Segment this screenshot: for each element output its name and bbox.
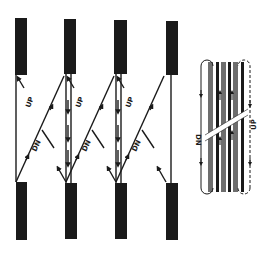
block-bottom-2 bbox=[65, 183, 77, 239]
label-up-1: UP bbox=[24, 96, 35, 109]
inset-label-up: UP bbox=[250, 119, 258, 130]
inset-diagram: DN UP bbox=[194, 60, 258, 194]
block-top-2 bbox=[64, 19, 76, 74]
block-bottom-1 bbox=[16, 182, 27, 240]
top-blocks bbox=[15, 18, 178, 75]
label-up-2: UP bbox=[74, 96, 85, 109]
label-up-3: UP bbox=[124, 96, 135, 109]
inset-label-dn: DN bbox=[194, 134, 202, 146]
block-bottom-3 bbox=[115, 183, 127, 239]
flow-lines bbox=[16, 74, 171, 183]
block-top-1 bbox=[15, 18, 27, 75]
label-dn-1: DN bbox=[31, 139, 43, 153]
block-bottom-4 bbox=[166, 183, 178, 240]
label-dn-2: DN bbox=[81, 139, 93, 153]
bottom-blocks bbox=[16, 182, 178, 240]
escalator-flow-diagram: UP DN UP DN UP DN DN UP bbox=[0, 0, 269, 265]
label-dn-3: DN bbox=[131, 139, 143, 153]
block-top-3 bbox=[114, 20, 127, 74]
block-top-4 bbox=[166, 21, 178, 75]
